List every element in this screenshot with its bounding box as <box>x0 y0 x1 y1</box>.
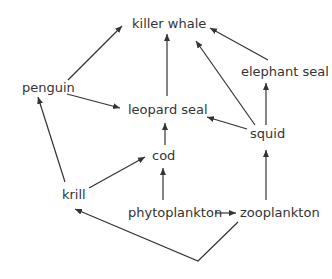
node-squid: squid <box>250 126 285 142</box>
food-web-diagram: killer whale elephant seal penguin leopa… <box>0 0 332 279</box>
node-cod: cod <box>152 148 175 164</box>
node-killer-whale: killer whale <box>132 16 206 32</box>
arrow-krill-to-penguin <box>38 97 65 182</box>
arrow-squid-to-leopard-seal <box>207 117 247 129</box>
arrow-krill-to-cod <box>89 157 145 188</box>
node-penguin: penguin <box>22 80 75 96</box>
node-krill: krill <box>62 187 86 203</box>
arrow-penguin-to-killer-whale <box>68 26 122 80</box>
node-zooplankton: zooplankton <box>240 205 320 221</box>
node-phytoplankton: phytoplankton <box>128 205 222 221</box>
arrow-elephant-seal-to-killer-whale <box>210 28 268 60</box>
node-leopard-seal: leopard seal <box>128 102 208 118</box>
node-elephant-seal: elephant seal <box>241 64 329 80</box>
arrow-penguin-to-leopard-seal <box>67 94 120 108</box>
